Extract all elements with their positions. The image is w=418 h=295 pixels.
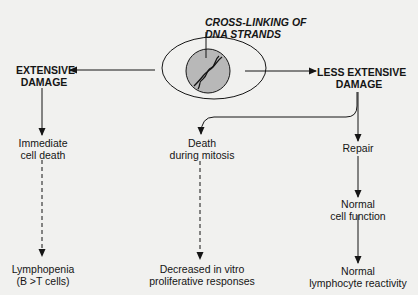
lymphopenia-line-1: Lymphopenia (6, 264, 80, 276)
extensive-damage-line-2: DAMAGE (16, 77, 72, 89)
death-during-mitosis-line-1: Death (162, 138, 242, 150)
diagram-title: CROSS-LINKING OF DNA STRANDS (205, 17, 307, 40)
normal-cell-function-line-2: cell function (318, 211, 398, 223)
node-repair: Repair (330, 143, 386, 155)
title-line-1: CROSS-LINKING OF (205, 17, 307, 29)
node-lymphopenia: Lymphopenia (B >T cells) (6, 264, 80, 287)
normal-cell-function-line-1: Normal (318, 199, 398, 211)
decreased-responses-line-2: proliferative responses (140, 276, 264, 288)
lymphopenia-line-2: (B >T cells) (6, 276, 80, 288)
immediate-cell-death-line-2: cell death (12, 150, 74, 162)
node-normal-cell-function: Normal cell function (318, 199, 398, 222)
title-line-2: DNA STRANDS (205, 29, 307, 41)
node-immediate-cell-death: Immediate cell death (12, 138, 74, 161)
decreased-responses-line-1: Decreased in vitro (140, 264, 264, 276)
immediate-cell-death-line-1: Immediate (12, 138, 74, 150)
node-death-during-mitosis: Death during mitosis (162, 138, 242, 161)
less-extensive-damage-line-2: DAMAGE (317, 79, 401, 91)
normal-reactivity-line-2: lymphocyte reactivity (306, 278, 410, 290)
extensive-damage-line-1: EXTENSIVE (16, 65, 72, 77)
node-normal-reactivity: Normal lymphocyte reactivity (306, 266, 410, 289)
node-less-extensive-damage: LESS EXTENSIVE DAMAGE (317, 67, 401, 90)
less-extensive-damage-line-1: LESS EXTENSIVE (317, 67, 401, 79)
cell-icon (162, 37, 266, 99)
death-during-mitosis-line-2: during mitosis (162, 150, 242, 162)
node-extensive-damage: EXTENSIVE DAMAGE (16, 65, 72, 88)
normal-reactivity-line-1: Normal (306, 266, 410, 278)
node-decreased-responses: Decreased in vitro proliferative respons… (140, 264, 264, 287)
repair-label: Repair (330, 143, 386, 155)
